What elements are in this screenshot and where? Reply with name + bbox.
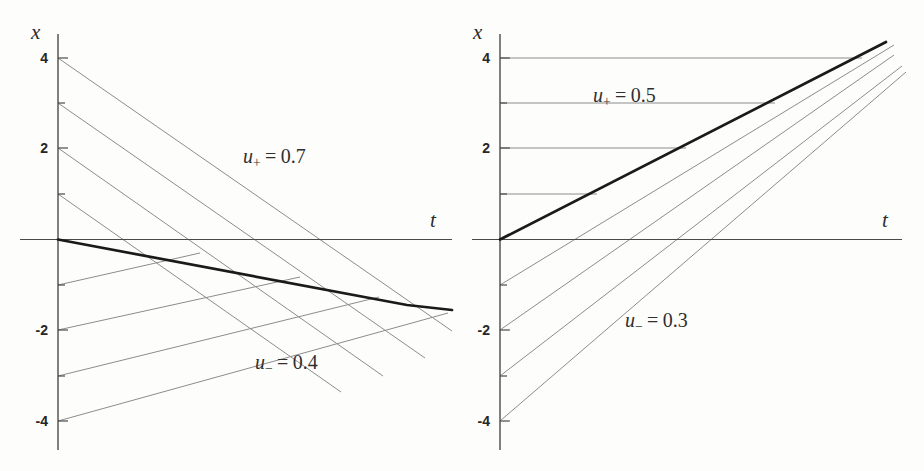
char-line: [58, 297, 379, 376]
u-minus-subscript: −: [635, 319, 643, 334]
u-plus-subscript: +: [603, 94, 611, 109]
left-characteristics-lower: [58, 253, 448, 421]
char-line: [58, 313, 448, 421]
u-symbol: u: [243, 145, 253, 167]
figure-root: x t 4 2 -2 -4 u+=0.7 u−=0.4: [0, 0, 924, 471]
u-minus-value: 0.4: [293, 351, 318, 373]
u-minus-subscript: −: [265, 361, 273, 376]
u-minus-value: 0.3: [663, 309, 688, 331]
chart-panel-left: x t 4 2 -2 -4 u+=0.7 u−=0.4: [0, 0, 462, 471]
char-line: [58, 148, 383, 376]
u-plus-annotation-right: u+=0.5: [593, 85, 656, 108]
tick-label-4: 4: [466, 51, 490, 65]
equals-sign: =: [647, 309, 658, 331]
equals-sign: =: [265, 145, 276, 167]
u-plus-value: 0.5: [631, 84, 656, 106]
left-characteristics-upper: [58, 58, 452, 392]
right-panel-canvas: [462, 0, 924, 471]
right-characteristics-rising: [500, 45, 906, 421]
tick-label-2: 2: [24, 141, 48, 155]
u-plus-subscript: +: [253, 155, 261, 170]
shock-path-left: [58, 240, 452, 311]
tick-label-minus-2: -2: [460, 323, 490, 337]
char-line: [58, 58, 452, 331]
u-plus-annotation-left: u+=0.7: [243, 146, 306, 169]
char-line: [58, 103, 425, 358]
u-minus-annotation-right: u−=0.3: [625, 310, 688, 333]
y-axis-label-left: x: [31, 22, 40, 43]
tick-label-4: 4: [24, 51, 48, 65]
equals-sign: =: [615, 84, 626, 106]
u-symbol: u: [255, 351, 265, 373]
chart-panel-right: x t 4 2 -2 -4 u+=0.5 u−=0.3: [462, 0, 924, 471]
right-characteristics-horizontal: [500, 58, 862, 194]
y-axis-label-right: x: [473, 22, 482, 43]
char-line: [58, 277, 300, 330]
left-panel-canvas: [0, 0, 462, 471]
char-line: [500, 66, 902, 376]
char-line: [500, 45, 894, 285]
x-axis-label-right: t: [882, 210, 888, 231]
tick-label-2: 2: [466, 141, 490, 155]
u-symbol: u: [625, 309, 635, 331]
char-line: [500, 55, 894, 330]
x-axis-label-left: t: [430, 210, 436, 231]
tick-label-minus-2: -2: [18, 323, 48, 337]
shock-path-right: [500, 42, 886, 240]
u-symbol: u: [593, 84, 603, 106]
char-line: [500, 72, 906, 421]
tick-label-minus-4: -4: [460, 414, 490, 428]
equals-sign: =: [277, 351, 288, 373]
tick-label-minus-4: -4: [18, 414, 48, 428]
u-plus-value: 0.7: [281, 145, 306, 167]
u-minus-annotation-left: u−=0.4: [255, 352, 318, 375]
char-line: [58, 253, 200, 285]
